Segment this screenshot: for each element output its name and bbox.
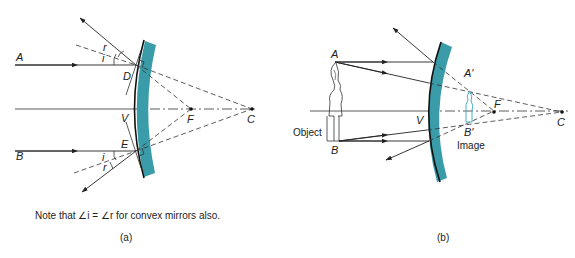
- virtual-ray-b-to-c: [427, 112, 562, 130]
- label-image-top: A': [463, 67, 474, 79]
- angle-r-arc-bottom: [110, 162, 113, 169]
- label-v: V: [121, 112, 130, 124]
- convex-mirror-b: [428, 42, 452, 182]
- label-f-b: F: [494, 98, 502, 110]
- label-a: A: [15, 51, 23, 63]
- panel-b: A B A' B' V F C Object Image (b): [293, 28, 568, 243]
- label-object: Object: [293, 127, 322, 138]
- label-angle-r-bottom: r: [103, 161, 108, 173]
- label-c-b: C: [557, 116, 565, 128]
- label-c: C: [247, 113, 255, 125]
- label-e: E: [121, 138, 129, 150]
- focus-point-b: [492, 110, 496, 114]
- panel-a: A B D E V F C i r i r Note that ∠i = ∠r …: [15, 18, 258, 243]
- label-object-bottom: B: [331, 144, 338, 156]
- reflected-ray-d: [80, 18, 136, 65]
- normal-d-to-c: [136, 65, 252, 109]
- center-point-b: [560, 110, 564, 114]
- label-angle-i-top: i: [102, 52, 105, 64]
- label-angle-r-top: r: [103, 41, 108, 53]
- reflected-ray-a: [393, 28, 433, 62]
- label-image: Image: [457, 140, 485, 151]
- label-b: B: [16, 150, 23, 162]
- label-d: D: [123, 70, 131, 82]
- label-f: F: [187, 113, 195, 125]
- caption-b: (b): [437, 232, 449, 243]
- angle-i-arc-top: [114, 54, 116, 65]
- convex-mirror-diagram: A B D E V F C i r i r Note that ∠i = ∠r …: [0, 0, 575, 258]
- object-figure: [327, 63, 342, 141]
- reflected-ray-e: [82, 151, 136, 192]
- label-v-b: V: [416, 114, 425, 126]
- caption-a: (a): [120, 232, 132, 243]
- label-image-bottom: B': [464, 126, 474, 138]
- reflected-ray-b: [386, 141, 429, 160]
- normal-e-to-c: [136, 109, 252, 151]
- image-figure: [466, 92, 473, 122]
- label-object-top: A: [330, 48, 338, 60]
- focus-point-a: [189, 107, 193, 111]
- center-point-a: [250, 107, 254, 111]
- note-text: Note that ∠i = ∠r for convex mirrors als…: [35, 210, 220, 221]
